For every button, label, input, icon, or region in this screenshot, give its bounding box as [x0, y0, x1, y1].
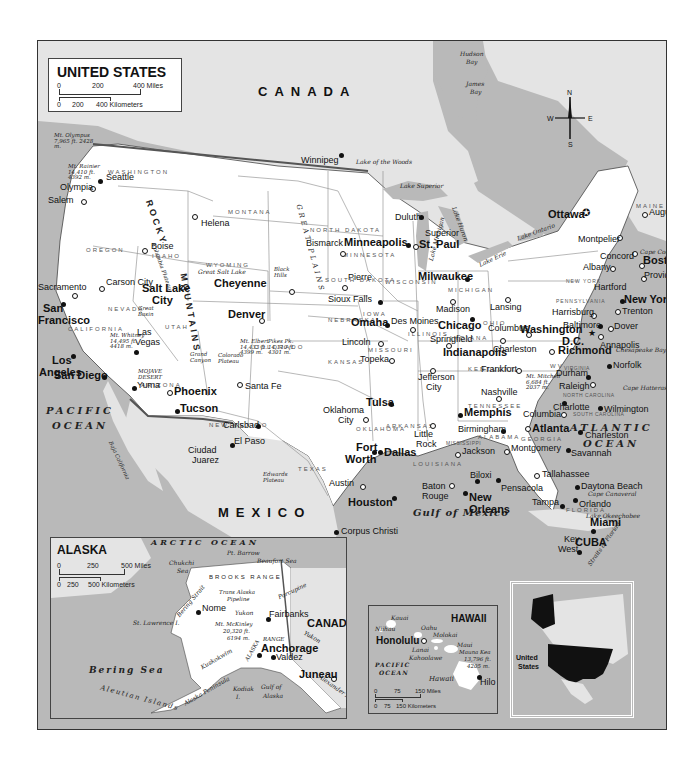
city-dot-sacramento: [72, 293, 78, 299]
city-atlanta: Atlanta: [532, 423, 569, 434]
alaska-gulf-2: Alaska: [263, 693, 283, 699]
city-phoenix: Phoenix: [174, 386, 217, 397]
alaska-scale-bar-miles: [59, 569, 125, 575]
city-las-vegas-2: Vegas: [135, 338, 160, 347]
scale-km-end: 400 Kilometers: [96, 101, 143, 108]
alaska-st-lawrence: St. Lawrence I.: [133, 620, 179, 626]
city-dot-pierre: [342, 285, 348, 291]
label-canada: CANADA: [258, 85, 356, 98]
city-dot-seattle: [98, 179, 103, 184]
alaska-brooks: BROOKS RANGE: [209, 574, 282, 580]
label-black-hills: Black Hills: [274, 267, 294, 278]
scale-miles-end: 400 Miles: [133, 82, 163, 89]
hawaii-scale-bar-km: [375, 699, 403, 702]
label-edwards-plateau: Edwards Plateau: [263, 472, 293, 483]
locator-us: [548, 644, 613, 684]
city-jefferson-city-2: City: [426, 383, 442, 392]
city-ciudad-juarez-2: Juarez: [192, 456, 219, 465]
label-james-1: James: [466, 81, 484, 87]
city-winnipeg: Winnipeg: [301, 156, 339, 165]
city-little-rock-2: Rock: [416, 440, 437, 449]
alaska-inset: ALASKA 0 250 500 Miles 0 250 500 Kilomet…: [50, 537, 347, 719]
city-albany: Albany: [583, 263, 611, 272]
us-map: UNITED STATES 0 200 400 Miles 0 200 400 …: [37, 40, 667, 730]
city-wilmington: Wilmington: [604, 405, 649, 414]
city-milwaukee: Milwaukee: [418, 271, 473, 282]
compass-e: E: [588, 115, 593, 122]
city-dot-trenton: [615, 309, 621, 315]
alaska-chukchi-1: Chukchi: [169, 560, 194, 566]
city-bismarck: Bismarck: [306, 239, 343, 248]
alaska-kodiak-2: I.: [236, 694, 240, 700]
city-dot-las-vegas: [134, 350, 139, 355]
city-chicago: Chicago: [438, 320, 481, 331]
city-dot-des-moines: [410, 327, 416, 333]
hawaii-honolulu: Honolulu: [376, 636, 419, 646]
state-north-carolina: NORTH CAROLINA: [563, 393, 615, 398]
hawaii-mauna-kea-2: 13,796 ft.: [464, 657, 491, 663]
city-dot-helena: [192, 214, 198, 220]
alaska-arctic-2: OCEAN: [211, 538, 259, 546]
city-daytona: Daytona Beach: [581, 482, 643, 491]
alaska-beaufort: Beaufort Sea: [257, 558, 297, 564]
city-providence: Providence: [644, 271, 667, 280]
city-washington-2: D.C.: [562, 336, 584, 347]
city-dot-norfolk: [607, 364, 612, 369]
city-ottawa: Ottawa: [548, 209, 585, 220]
alaska-scale-km-zero: 0: [57, 581, 61, 588]
city-fort-worth-2: Worth: [345, 454, 377, 465]
hawaii-mauna-kea-3: 4205 m.: [467, 664, 490, 670]
city-boston: Boston: [643, 255, 667, 266]
city-dot-miami: [591, 529, 596, 534]
city-dot-austin: [360, 484, 366, 490]
state-california: CALIFORNIA: [68, 326, 124, 332]
city-houston: Houston: [348, 497, 393, 508]
locator-base-svg: [513, 584, 631, 715]
city-salem: Salem: [48, 196, 74, 205]
city-jackson: Jackson: [462, 447, 495, 456]
hawaii-hilo: Hilo: [480, 678, 496, 687]
alaska-pipeline-2: Pipeline: [227, 597, 250, 603]
alaska-chukchi-2: Sea: [177, 568, 188, 574]
city-helena: Helena: [201, 219, 230, 228]
city-dot-dallas: [378, 450, 383, 455]
state-texas: TEXAS: [298, 466, 328, 472]
state-nevada: NEVADA: [108, 306, 144, 312]
label-great-salt-lake: Great Salt Lake: [198, 269, 246, 275]
city-savannah: Savannah: [571, 449, 612, 458]
city-dot-richmond: [549, 349, 555, 355]
label-mt-rainier: Mt. Rainier 14,410 ft. 4392 m.: [68, 164, 108, 181]
city-trenton: Trenton: [622, 307, 653, 316]
locator-mexico: [561, 679, 593, 704]
city-boise: Boise: [151, 242, 174, 251]
alaska-gulf-1: Gulf of: [261, 684, 282, 690]
city-dot-carson-city: [99, 286, 105, 292]
map-title: UNITED STATES: [57, 65, 166, 79]
city-des-moines: Des Moines: [391, 317, 439, 326]
city-dot-montgomery: [504, 449, 510, 455]
hawaii-kauai: Kauai: [391, 615, 408, 621]
city-biloxi: Biloxi: [470, 471, 492, 480]
state-michigan: MICHIGAN: [448, 287, 494, 293]
city-key-west-1: Key: [564, 535, 580, 544]
city-harrisburg: Harrisburg: [552, 308, 594, 317]
alaska-nome: Nome: [202, 604, 226, 613]
city-dot-corpus-christi: [334, 530, 339, 535]
label-hudson-1: Hudson: [460, 51, 484, 57]
city-tallahassee: Tallahassee: [542, 470, 590, 479]
city-dot-augusta: [642, 212, 648, 218]
city-cheyenne: Cheyenne: [214, 278, 267, 289]
city-montgomery: Montgomery: [511, 444, 561, 453]
city-dot-topeka: [389, 358, 395, 364]
label-grand-canyon: Grand Canyon: [190, 352, 214, 363]
alaska-scale-miles-zero: 0: [57, 562, 61, 569]
alaska-pt-barrow: Pt. Barrow: [227, 550, 260, 556]
city-duluth: Duluth: [395, 213, 421, 222]
city-key-west-2: West: [558, 545, 578, 554]
city-dot-los-angeles: [71, 354, 76, 359]
hawaii-dot-honolulu: [421, 638, 427, 644]
city-pierre: Pierre: [348, 273, 372, 282]
hawaii-scale-km-end: 150 Kilometers: [396, 703, 436, 709]
alaska-pipeline-1: Trans Alaska: [219, 590, 255, 596]
city-san-diego: San Diego: [54, 370, 108, 381]
